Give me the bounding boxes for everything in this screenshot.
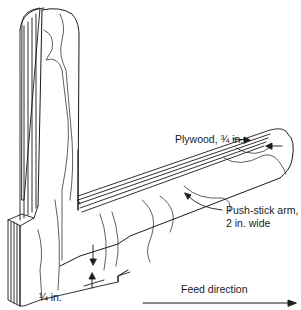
feed-direction-arrow bbox=[143, 300, 296, 306]
notch-depth-label: ¼ in. bbox=[39, 291, 62, 303]
inner-corner bbox=[78, 150, 80, 210]
feed-direction-label: Feed direction bbox=[181, 283, 248, 295]
push-stick-arm-label: Push-stick arm, bbox=[226, 204, 298, 216]
handle-base bbox=[8, 200, 130, 306]
push-stick-arm-width-label: 2 in. wide bbox=[226, 217, 270, 229]
handle-plywood-edge bbox=[20, 8, 44, 220]
handle-face bbox=[38, 9, 79, 260]
plywood-label: Plywood, ¾ in. bbox=[175, 133, 243, 145]
push-stick-illustration bbox=[0, 0, 301, 310]
